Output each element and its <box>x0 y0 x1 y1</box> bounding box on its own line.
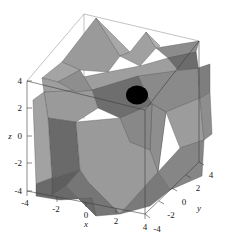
y-tick-label-0: 0 <box>182 197 187 207</box>
z-tick-label-0: 0 <box>18 131 23 141</box>
y-tick-mark-neg4 <box>145 214 150 218</box>
y-tick-label-4: 4 <box>209 170 214 180</box>
x-tick-label-neg4: -4 <box>21 198 29 208</box>
x-axis-title: x <box>83 219 88 229</box>
facet-left-dark-column <box>48 118 80 178</box>
y-tick-label-2: 2 <box>196 183 201 193</box>
black-hole-marker <box>126 86 148 105</box>
z-tick-label-4: 4 <box>18 76 23 86</box>
y-tick-mark-0 <box>172 188 177 191</box>
plot-canvas: 4 2 0 -2 -4 z -4 -2 0 2 4 x -4 -2 0 2 4 … <box>0 0 232 248</box>
surface-facets <box>33 18 212 216</box>
x-tick-label-neg2: -2 <box>52 204 60 214</box>
y-axis-title: y <box>196 203 201 213</box>
y-tick-label-neg4: -4 <box>153 224 161 234</box>
y-tick-mark-neg2 <box>159 201 164 204</box>
x-tick-label-2: 2 <box>114 216 119 226</box>
z-axis-tick-labels: 4 2 0 -2 -4 z <box>7 76 22 196</box>
z-tick-label-neg2: -2 <box>15 158 23 168</box>
facet-left-mid-light <box>44 90 98 122</box>
z-tick-label-2: 2 <box>18 103 23 113</box>
plot-figure: 4 2 0 -2 -4 z -4 -2 0 2 4 x -4 -2 0 2 4 … <box>0 0 232 248</box>
z-axis-title: z <box>7 131 12 141</box>
z-tick-label-neg4: -4 <box>15 186 23 196</box>
facet-upper-left-peak <box>62 18 120 72</box>
y-tick-label-neg2: -2 <box>167 210 175 220</box>
facet-right-upper-sliver <box>198 64 210 98</box>
z-axis-tickmarks <box>27 81 32 191</box>
x-tick-label-4: 4 <box>143 222 148 232</box>
